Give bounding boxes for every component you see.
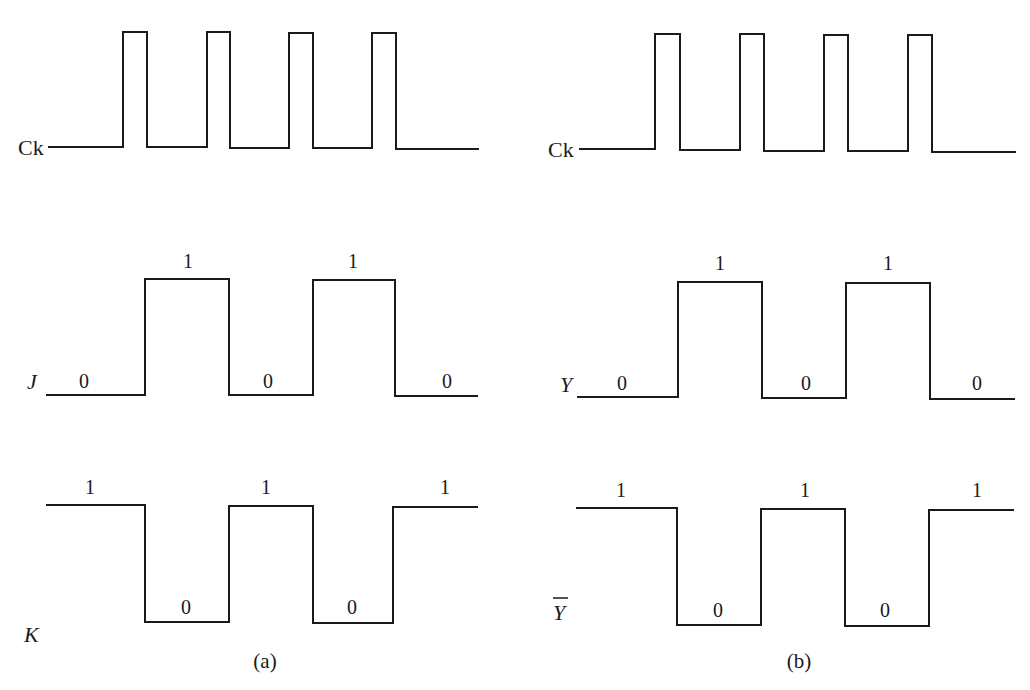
k-level-0: 1 <box>85 476 95 498</box>
caption-a: (a) <box>253 649 276 673</box>
signal-label-k: K <box>23 622 40 647</box>
y-level-3: 1 <box>883 252 893 274</box>
k-level-2: 1 <box>261 476 271 498</box>
panel-a: Ck J 0 1 0 1 0 K 1 0 1 0 1 (a) <box>18 32 479 673</box>
signal-label-ck-b: Ck <box>548 137 574 162</box>
timing-diagram: Ck J 0 1 0 1 0 K 1 0 1 0 1 (a) Ck Y 0 1 … <box>0 0 1030 690</box>
signal-label-ck-a: Ck <box>18 135 44 160</box>
j-level-2: 0 <box>263 370 273 392</box>
k-level-3: 0 <box>347 596 357 618</box>
panel-b: Ck Y 0 1 0 1 0 Y 1 0 1 0 1 (b) <box>548 34 1016 673</box>
y-bar-level-2: 1 <box>800 479 810 501</box>
j-level-4: 0 <box>442 370 452 392</box>
y-level-2: 0 <box>801 372 811 394</box>
signal-label-j: J <box>27 369 38 394</box>
j-level-1: 1 <box>183 250 193 272</box>
y-level-4: 0 <box>972 372 982 394</box>
caption-b: (b) <box>787 649 812 673</box>
signal-label-y: Y <box>560 372 575 397</box>
signal-label-y-bar-text: Y <box>553 600 568 625</box>
j-level-3: 1 <box>348 250 358 272</box>
y-level-1: 1 <box>715 252 725 274</box>
y-waveform <box>577 282 1015 399</box>
k-level-4: 1 <box>440 476 450 498</box>
y-level-0: 0 <box>617 372 627 394</box>
k-waveform <box>46 505 478 623</box>
y-bar-level-1: 0 <box>713 599 723 621</box>
y-bar-level-0: 1 <box>616 479 626 501</box>
k-level-1: 0 <box>181 596 191 618</box>
y-bar-level-3: 0 <box>880 599 890 621</box>
y-bar-waveform <box>576 508 1014 626</box>
signal-label-y-bar: Y <box>553 598 568 625</box>
j-level-0: 0 <box>79 370 89 392</box>
clock-waveform-a <box>48 32 479 149</box>
j-waveform <box>46 279 478 396</box>
clock-waveform-b <box>579 34 1016 152</box>
y-bar-level-4: 1 <box>972 479 982 501</box>
